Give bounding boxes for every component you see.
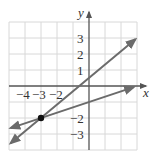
y-tick-label: 2 <box>77 47 84 62</box>
y-tick-label: −3 <box>70 127 84 142</box>
x-tick-label: −2 <box>49 87 63 102</box>
y-tick-label: 1 <box>77 63 84 78</box>
x-tick-label: −4 <box>16 87 30 102</box>
y-axis-label: y <box>76 5 84 20</box>
y-tick-label: 3 <box>77 31 84 46</box>
x-tick-label: −3 <box>32 87 46 102</box>
x-axis-label: x <box>142 85 149 100</box>
coordinate-plane: x y −4 −3 −2 3 2 1 −2 −3 <box>0 0 153 155</box>
intersection-point <box>38 115 44 121</box>
y-tick-label: −2 <box>70 111 84 126</box>
